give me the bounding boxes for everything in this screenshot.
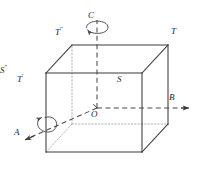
hidden-edges-group: [46, 45, 168, 152]
axis-c-label: C: [88, 11, 94, 20]
visible-edges-group: [46, 45, 168, 152]
edge-bottom-right-diagonal: [142, 124, 168, 152]
figure-container: C B A O T T″ S″ T′ S: [0, 0, 197, 174]
axis-b-label: B: [169, 93, 175, 102]
origin-label: O: [91, 110, 98, 119]
unit-cell-diagram: [0, 0, 197, 174]
point-t-star-mark: ″: [60, 25, 63, 32]
edge-top-left-diagonal: [46, 45, 72, 73]
point-s-label: S: [117, 75, 122, 84]
edge-top-right-diagonal: [142, 45, 168, 73]
point-t-prime-label: T′: [17, 75, 23, 84]
symmetry-axes-group: [31, 20, 184, 137]
point-s-star-label: S″: [0, 66, 7, 75]
point-s-star-mark: ″: [5, 63, 8, 70]
axis-a-arrow: [25, 136, 34, 140]
point-t-label: T: [171, 27, 176, 36]
point-t-prime-mark: ′: [22, 72, 23, 79]
axis-a-label: A: [14, 128, 20, 137]
point-t-star-label: T″: [55, 28, 63, 37]
